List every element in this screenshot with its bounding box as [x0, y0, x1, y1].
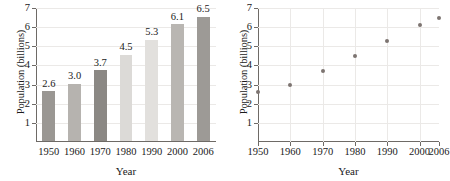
scatter-chart-y-tick-mark [254, 104, 258, 105]
bar-chart-x-tick-label: 2006 [193, 147, 214, 158]
scatter-chart-plot-area: 12345671950196019701980199020002006 [258, 8, 439, 142]
scatter-chart-data-point [418, 23, 422, 27]
bar-chart-y-tick-mark [32, 123, 36, 124]
bar-chart-y-tick-label: 1 [25, 118, 30, 129]
scatter-chart-x-tick-label: 1970 [312, 147, 333, 158]
bar-chart-x-axis-line [36, 141, 216, 142]
bar-chart-y-tick-label: 7 [25, 3, 30, 14]
scatter-chart-gridline-horizontal [258, 8, 439, 9]
scatter-chart-gridline-vertical [387, 8, 388, 142]
scatter-chart-gridline-horizontal [258, 46, 439, 47]
bar-chart-gridline-horizontal [36, 8, 216, 9]
bar-chart-bar: 4.5 [120, 55, 133, 141]
scatter-chart-gridline-horizontal [258, 104, 439, 105]
scatter-chart-data-point [256, 90, 260, 94]
scatter-chart-x-tick-label: 1990 [377, 147, 398, 158]
scatter-chart-x-tick-label: 1950 [248, 147, 269, 158]
scatter-chart-gridline-vertical [355, 8, 356, 142]
scatter-chart-y-tick-label: 6 [247, 22, 252, 33]
bar-chart-y-tick-label: 2 [25, 98, 30, 109]
bar-chart-bar-value-label: 4.5 [119, 42, 132, 53]
scatter-chart-y-tick-label: 7 [247, 3, 252, 14]
bar-chart-bar-value-label: 3.0 [68, 71, 81, 82]
scatter-chart-x-tick-label: 2000 [409, 147, 430, 158]
scatter-chart-x-tick-label: 2006 [429, 147, 450, 158]
scatter-chart-y-tick-label: 2 [247, 98, 252, 109]
bar-chart-y-tick-mark [32, 27, 36, 28]
bar-chart-y-tick-label: 5 [25, 41, 30, 52]
scatter-chart-y-tick-label: 3 [247, 79, 252, 90]
scatter-chart-y-tick-mark [254, 65, 258, 66]
scatter-chart-y-tick-mark [254, 27, 258, 28]
bar-chart-bar: 3.0 [68, 84, 81, 141]
bar-chart-x-tick-label: 1970 [90, 147, 111, 158]
scatter-chart-gridline-horizontal [258, 123, 439, 124]
scatter-chart-x-axis-title: Year [258, 166, 439, 177]
bar-chart-x-axis-title: Year [36, 166, 216, 177]
bar-chart-bar: 2.6 [42, 91, 55, 141]
scatter-chart-y-tick-mark [254, 8, 258, 9]
bar-chart-bar: 6.5 [197, 17, 210, 141]
scatter-chart-y-tick-mark [254, 85, 258, 86]
scatter-chart-data-point [437, 16, 441, 20]
scatter-chart-panel: Population (billions) 123456719501960197… [225, 0, 449, 181]
scatter-chart-data-point [321, 69, 325, 73]
bar-chart-y-tick-mark [32, 8, 36, 9]
bar-chart-y-tick-label: 4 [25, 60, 30, 71]
bar-chart-x-tick-label: 1960 [64, 147, 85, 158]
scatter-chart-x-tick-label: 1980 [344, 147, 365, 158]
bar-chart-plot-area: 123456719502.619603.019703.719804.519905… [36, 8, 216, 142]
bar-chart-bar: 6.1 [171, 24, 184, 141]
bar-chart-bar-value-label: 5.3 [145, 27, 158, 38]
bar-chart-x-tick-label: 1990 [141, 147, 162, 158]
scatter-chart-gridline-horizontal [258, 85, 439, 86]
scatter-chart-data-point [385, 39, 389, 43]
scatter-chart-y-tick-label: 4 [247, 60, 252, 71]
bar-chart-bar: 5.3 [145, 40, 158, 141]
bar-chart-x-tick-label: 1950 [38, 147, 59, 158]
bar-chart-bar: 3.7 [94, 70, 107, 141]
scatter-chart-gridline-vertical [290, 8, 291, 142]
scatter-chart-gridline-horizontal [258, 27, 439, 28]
scatter-chart-gridline-vertical [323, 8, 324, 142]
bar-chart-bar-value-label: 6.1 [171, 12, 184, 23]
scatter-chart-y-tick-label: 1 [247, 118, 252, 129]
bar-chart-y-tick-label: 6 [25, 22, 30, 33]
scatter-chart-x-tick-label: 1960 [280, 147, 301, 158]
scatter-chart-y-tick-label: 5 [247, 41, 252, 52]
bar-chart-y-tick-mark [32, 46, 36, 47]
bar-chart-y-tick-mark [32, 85, 36, 86]
bar-chart-y-tick-mark [32, 65, 36, 66]
scatter-chart-data-point [353, 54, 357, 58]
scatter-chart-x-axis-line [258, 141, 439, 142]
bar-chart-bar-value-label: 2.6 [42, 79, 55, 90]
bar-chart-bar-value-label: 6.5 [197, 4, 210, 15]
scatter-chart-data-point [288, 83, 292, 87]
bar-chart-gridline-horizontal [36, 27, 216, 28]
scatter-chart-y-tick-mark [254, 123, 258, 124]
bar-chart-y-tick-label: 3 [25, 79, 30, 90]
bar-chart-panel: Population (billions) 123456719502.61960… [0, 0, 225, 181]
bar-chart-y-tick-mark [32, 104, 36, 105]
bar-chart-bar-value-label: 3.7 [94, 58, 107, 69]
scatter-chart-gridline-vertical [420, 8, 421, 142]
scatter-chart-gridline-horizontal [258, 65, 439, 66]
scatter-chart-y-tick-mark [254, 46, 258, 47]
bar-chart-x-tick-label: 2000 [167, 147, 188, 158]
bar-chart-x-tick-label: 1980 [116, 147, 137, 158]
